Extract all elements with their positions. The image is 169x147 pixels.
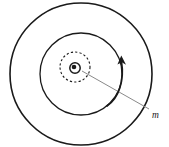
central-body-dot bbox=[72, 65, 77, 70]
middle-orbit-circle bbox=[40, 33, 122, 115]
orbital-motion-diagram: m bbox=[0, 0, 169, 147]
rotation-direction-arrow bbox=[107, 62, 122, 106]
outer-orbit-circle bbox=[10, 3, 152, 145]
mass-leader-line bbox=[82, 71, 149, 109]
figure-root: m bbox=[0, 0, 169, 147]
mass-label: m bbox=[152, 110, 159, 120]
